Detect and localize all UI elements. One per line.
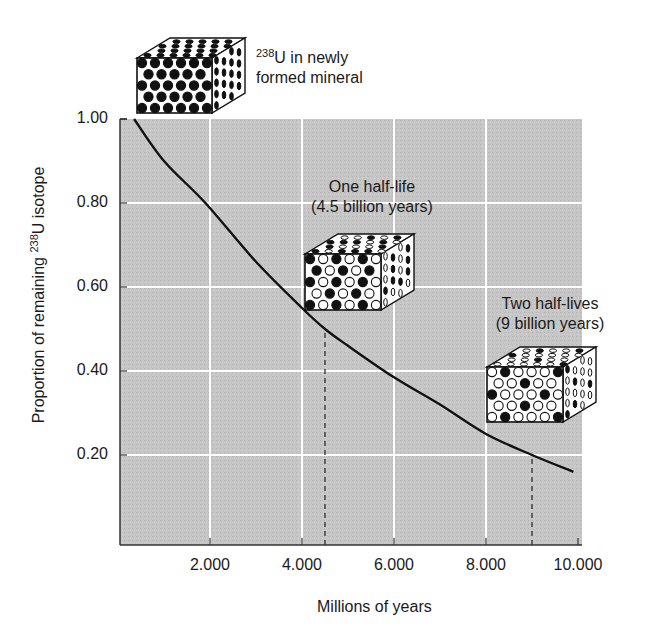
y-tick-label: 1.00 xyxy=(48,109,108,127)
crystal-cube-icon xyxy=(137,38,245,113)
x-tick-label: 8.000 xyxy=(451,556,521,574)
y-axis-title-suffix: U isotope xyxy=(30,167,47,235)
crystal-cube-icon xyxy=(305,234,414,310)
x-tick-label: 4.000 xyxy=(267,556,337,574)
y-axis-title-wrap: Proportion of remaining 238U isotope xyxy=(26,100,52,490)
annotation-two-half-lives: Two half-lives (9 billion years) xyxy=(475,294,625,334)
annotation-two-half-lives-line1: Two half-lives xyxy=(475,294,625,314)
y-axis-title-prefix: Proportion of remaining xyxy=(30,253,47,424)
annotation-two-half-lives-line2: (9 billion years) xyxy=(475,314,625,334)
y-tick-label: 0.80 xyxy=(48,193,108,211)
y-tick-label: 0.40 xyxy=(48,361,108,379)
annotation-one-half-life-line2: (4.5 billion years) xyxy=(287,197,457,217)
annotation-initial-superscript: 238 xyxy=(256,47,274,59)
annotation-one-half-life: One half-life (4.5 billion years) xyxy=(287,177,457,217)
crystal-cube-icon xyxy=(487,347,596,422)
x-tick-label: 6.000 xyxy=(359,556,429,574)
y-tick-label: 0.60 xyxy=(48,277,108,295)
x-tick-label: 10.000 xyxy=(543,556,613,574)
y-axis-title: Proportion of remaining 238U isotope xyxy=(30,167,48,424)
annotation-initial-line2: formed mineral xyxy=(256,68,363,88)
x-axis-title: Millions of years xyxy=(317,598,432,616)
x-tick-label: 2.000 xyxy=(175,556,245,574)
annotation-one-half-life-line1: One half-life xyxy=(287,177,457,197)
y-axis-title-superscript: 238 xyxy=(28,234,40,252)
y-tick-label: 0.20 xyxy=(48,445,108,463)
annotation-initial-text: U in newly xyxy=(274,49,348,66)
annotation-initial: 238U in newly formed mineral xyxy=(256,48,363,88)
annotation-initial-line1: 238U in newly xyxy=(256,48,363,68)
